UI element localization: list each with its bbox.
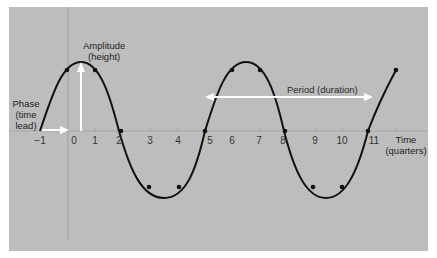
amplitude-label: Amplitude (height) xyxy=(83,40,125,62)
tick-label: 1 xyxy=(92,135,98,146)
phase-label-line2: (time xyxy=(11,109,41,120)
cycle-curve xyxy=(40,62,396,198)
tick-label: 0 xyxy=(71,135,77,146)
amplitude-label-line2: (height) xyxy=(83,51,125,62)
tick-label: 10 xyxy=(336,135,347,146)
sine-wave-diagram xyxy=(0,0,437,258)
amplitude-label-line1: Amplitude xyxy=(83,40,125,51)
phase-label-line1: Phase xyxy=(11,98,41,109)
amplitude-arrow xyxy=(77,62,85,131)
x-axis-title: Time (quarters) xyxy=(384,134,428,156)
tick-label: 8 xyxy=(280,135,286,146)
tick-label: 7 xyxy=(256,135,262,146)
tick-label: 9 xyxy=(312,135,318,146)
tick-label: 2 xyxy=(116,135,122,146)
tick-label: 11 xyxy=(369,135,379,146)
tick-label: 6 xyxy=(229,135,235,146)
phase-label: Phase (time lead) xyxy=(11,98,41,131)
x-axis-title-line2: (quarters) xyxy=(384,145,428,156)
tick-label: 3 xyxy=(147,135,153,146)
tick-label: −1 xyxy=(34,135,45,146)
phase-arrow xyxy=(42,126,69,134)
tick-label: 4 xyxy=(175,135,181,146)
x-axis-title-line1: Time xyxy=(384,134,428,145)
x-axis-ticks xyxy=(95,127,396,131)
period-label: Period (duration) xyxy=(287,84,358,95)
tick-label: 5 xyxy=(207,135,213,146)
phase-label-line3: lead) xyxy=(11,120,41,131)
